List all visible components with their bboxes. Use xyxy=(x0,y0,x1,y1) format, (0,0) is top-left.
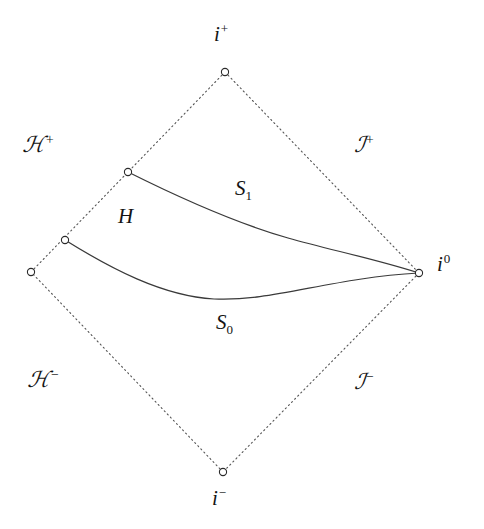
label-i-plus-sup: + xyxy=(221,21,228,36)
label-scri-minus: ℐ− xyxy=(355,370,374,393)
label-slice-S0-base: S xyxy=(216,310,227,334)
diagram-canvas xyxy=(0,0,484,529)
vertex-i-zero xyxy=(415,269,422,276)
label-i-zero-base: i xyxy=(437,252,443,276)
edge-horizon-minus xyxy=(31,272,223,472)
label-i-minus-sup: − xyxy=(219,485,226,500)
vertex-i-plus xyxy=(221,68,228,75)
penrose-diagram: i+ i− i0 ℋ+ ℋ− ℐ+ ℐ− S1 S0 H xyxy=(0,0,484,529)
label-horizon-minus-sup: − xyxy=(51,367,59,382)
label-horizon-minus: ℋ− xyxy=(28,368,59,391)
label-i-plus-base: i xyxy=(214,22,220,46)
endpoint-S0-left xyxy=(61,236,68,243)
curve-S0 xyxy=(65,240,419,299)
vertex-i-minus xyxy=(219,468,226,475)
label-scri-plus-base: ℐ xyxy=(354,134,366,156)
label-scri-plus: ℐ+ xyxy=(355,133,374,156)
label-scri-minus-base: ℐ xyxy=(354,371,366,393)
edge-scri-plus xyxy=(225,72,419,273)
label-horizon-plus: ℋ+ xyxy=(23,133,54,156)
vertex-markers xyxy=(27,68,422,475)
label-slice-S0-sub: 0 xyxy=(227,322,234,337)
label-region-H-base: H xyxy=(118,204,133,228)
label-horizon-plus-base: ℋ xyxy=(22,134,46,156)
label-scri-plus-sup: + xyxy=(366,132,374,147)
label-slice-S1-sub: 1 xyxy=(246,188,253,203)
label-i-plus: i+ xyxy=(214,22,228,45)
curve-S1 xyxy=(128,172,419,273)
label-i-zero: i0 xyxy=(437,252,450,275)
label-i-zero-sup: 0 xyxy=(444,251,451,266)
edge-scri-minus xyxy=(223,273,419,472)
label-slice-S1-base: S xyxy=(235,176,246,200)
label-i-minus-base: i xyxy=(212,486,218,510)
label-slice-S0: S0 xyxy=(216,312,233,336)
vertex-left xyxy=(27,268,34,275)
label-slice-S1: S1 xyxy=(235,178,252,202)
label-horizon-minus-base: ℋ xyxy=(27,369,51,391)
label-scri-minus-sup: − xyxy=(366,369,374,384)
label-i-minus: i− xyxy=(212,486,226,509)
endpoint-S1-left xyxy=(124,168,131,175)
label-region-H: H xyxy=(118,206,133,227)
label-horizon-plus-sup: + xyxy=(46,132,54,147)
